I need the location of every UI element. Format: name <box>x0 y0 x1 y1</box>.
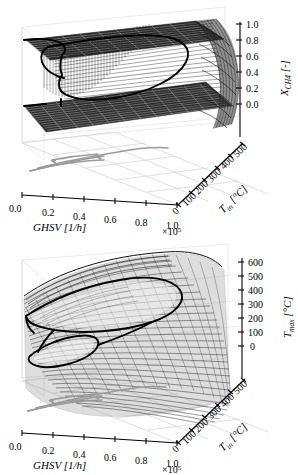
bottom-z-title-units: [°C] <box>281 296 293 316</box>
bottom-y-axis-title: Tin [°C] <box>216 420 251 455</box>
bottom-x-title-main: GHSV <box>33 459 62 471</box>
bottom-y-tick-0: 0 <box>170 443 181 454</box>
top-z-title-units: [-] <box>278 60 290 72</box>
bottom-z-tick-6: 600 <box>248 257 263 268</box>
top-3d-plot: 1.0 0.8 0.6 0.4 0.2 0.0 XCH4 [-] 0.0 0.2… <box>0 0 298 237</box>
top-y-axis-title: Tin [°C] <box>216 182 251 217</box>
chart-panel-top: 1.0 0.8 0.6 0.4 0.2 0.0 XCH4 [-] 0.0 0.2… <box>0 0 298 237</box>
bottom-3d-plot: 600 500 400 300 200 100 0 Tmax [°C] 0.0 … <box>0 238 298 475</box>
top-x-exponent: ×105 <box>162 226 182 238</box>
svg-text:XCH4 [-]: XCH4 [-] <box>278 60 293 97</box>
top-x-tick-3: 0.6 <box>104 214 117 225</box>
svg-text:Tmax [°C]: Tmax [°C] <box>281 296 296 338</box>
top-z-title-sub: CH4 <box>284 75 293 89</box>
bottom-y-tick-2: 200 <box>192 416 210 434</box>
top-y-tick-4: 400 <box>218 153 236 171</box>
bottom-z-tick-3: 300 <box>248 299 263 310</box>
top-x-title-units: [1/h] <box>64 221 87 233</box>
chart-panel-bottom: 600 500 400 300 200 100 0 Tmax [°C] 0.0 … <box>0 238 298 475</box>
top-z-tick-0: 0.0 <box>246 99 259 110</box>
bottom-x-axis-title: GHSV [1/h] <box>33 459 86 471</box>
top-x-tick-1: 0.2 <box>42 207 55 218</box>
top-x-axis-title: GHSV [1/h] <box>33 221 86 233</box>
bottom-x-tick-3: 0.6 <box>104 452 117 463</box>
bottom-x-exponent-prefix: ×10 <box>162 464 178 475</box>
top-z-tick-3: 0.6 <box>246 51 259 62</box>
top-x-exponent-prefix: ×10 <box>162 226 178 237</box>
bottom-z-ticks <box>238 262 244 346</box>
top-x-tick-0: 0.0 <box>9 203 22 214</box>
bottom-z-tick-0: 0 <box>250 341 255 352</box>
top-y-tick-3: 300 <box>205 166 223 184</box>
bottom-x-tick-1: 0.2 <box>42 445 55 456</box>
bottom-z-tick-5: 500 <box>248 271 263 282</box>
bottom-x-title-units: [1/h] <box>64 459 87 471</box>
svg-text:Tin [°C]: Tin [°C] <box>216 182 251 217</box>
top-x-exponent-value: 5 <box>178 226 182 234</box>
bottom-z-tick-labels: 600 500 400 300 200 100 0 <box>248 257 263 352</box>
top-z-tick-2: 0.4 <box>246 67 259 78</box>
bottom-z-tick-2: 200 <box>248 313 263 324</box>
top-z-axis-title: XCH4 [-] <box>278 60 293 97</box>
bottom-z-tick-1: 100 <box>248 327 263 338</box>
bottom-z-axis-title: Tmax [°C] <box>281 296 296 338</box>
bottom-x-exponent-value: 5 <box>178 464 182 472</box>
top-y-tick-5: 500 <box>231 141 249 159</box>
bottom-z-title-sub: max <box>287 319 296 332</box>
top-y-tick-0: 0 <box>170 205 181 216</box>
bottom-x-tick-0: 0.0 <box>9 441 22 452</box>
top-y-tick-labels: 0 100 200 300 400 500 <box>170 141 249 216</box>
bottom-x-tick-4: 0.8 <box>135 455 148 466</box>
top-z-tick-4: 0.8 <box>246 35 259 46</box>
bottom-x-axis <box>22 433 178 443</box>
bottom-x-exponent: ×105 <box>162 464 182 475</box>
bottom-z-tick-4: 400 <box>248 285 263 296</box>
top-z-tick-5: 1.0 <box>246 19 259 30</box>
top-x-axis <box>22 195 178 205</box>
top-x-tick-4: 0.8 <box>135 217 148 228</box>
top-x-title-main: GHSV <box>33 221 62 233</box>
svg-text:Tin [°C]: Tin [°C] <box>216 420 251 455</box>
top-projected-fold-curves <box>30 148 168 171</box>
top-z-tick-1: 0.2 <box>246 83 259 94</box>
figure-container: 1.0 0.8 0.6 0.4 0.2 0.0 XCH4 [-] 0.0 0.2… <box>0 0 298 475</box>
bottom-y-tick-5: 500 <box>231 378 249 396</box>
top-z-tick-labels: 1.0 0.8 0.6 0.4 0.2 0.0 <box>246 19 259 110</box>
top-y-tick-2: 200 <box>192 178 210 196</box>
